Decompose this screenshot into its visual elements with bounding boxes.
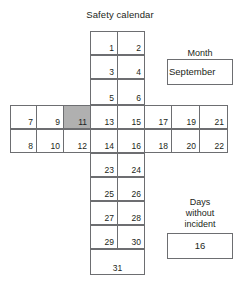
calendar-day-13[interactable]: 13 xyxy=(90,105,118,129)
calendar-day-4[interactable]: 4 xyxy=(117,55,145,79)
calendar-day-22[interactable]: 22 xyxy=(199,129,228,153)
calendar-day-7[interactable]: 7 xyxy=(10,105,37,129)
calendar-day-16[interactable]: 16 xyxy=(117,129,145,153)
calendar-day-9[interactable]: 9 xyxy=(36,105,64,129)
safety-calendar-diagram: Safety calendar 1 2 3 4 5 6 7 8 9 10 11 … xyxy=(0,0,240,301)
calendar-day-6[interactable]: 6 xyxy=(117,79,145,105)
calendar-day-21[interactable]: 21 xyxy=(199,105,228,129)
incident-panel-label-line3: incident xyxy=(166,219,234,230)
days-without-incident-value-box[interactable]: 16 xyxy=(167,233,233,259)
calendar-day-2[interactable]: 2 xyxy=(117,31,145,55)
calendar-day-30[interactable]: 30 xyxy=(117,225,145,249)
calendar-day-1[interactable]: 1 xyxy=(90,31,118,55)
calendar-day-28[interactable]: 28 xyxy=(117,201,145,225)
calendar-day-8[interactable]: 8 xyxy=(10,129,37,153)
month-panel-label: Month xyxy=(166,48,234,59)
incident-panel-label-line2: without xyxy=(166,208,234,219)
calendar-day-17[interactable]: 17 xyxy=(144,105,172,129)
calendar-day-26[interactable]: 26 xyxy=(117,177,145,201)
calendar-day-15[interactable]: 15 xyxy=(117,105,145,129)
page-title: Safety calendar xyxy=(0,9,240,20)
calendar-day-10[interactable]: 10 xyxy=(36,129,64,153)
calendar-day-27[interactable]: 27 xyxy=(90,201,118,225)
calendar-day-11-highlighted[interactable]: 11 xyxy=(63,105,91,129)
calendar-day-18[interactable]: 18 xyxy=(144,129,172,153)
calendar-day-20[interactable]: 20 xyxy=(171,129,200,153)
calendar-day-31[interactable]: 31 xyxy=(90,249,145,275)
incident-panel-label-line1: Days xyxy=(166,197,234,208)
calendar-day-29[interactable]: 29 xyxy=(90,225,118,249)
calendar-day-23[interactable]: 23 xyxy=(90,153,118,177)
calendar-day-5[interactable]: 5 xyxy=(90,79,118,105)
calendar-day-19[interactable]: 19 xyxy=(171,105,200,129)
month-value-box[interactable]: September xyxy=(167,59,233,85)
calendar-day-14[interactable]: 14 xyxy=(90,129,118,153)
calendar-day-24[interactable]: 24 xyxy=(117,153,145,177)
calendar-day-12[interactable]: 12 xyxy=(63,129,91,153)
calendar-day-25[interactable]: 25 xyxy=(90,177,118,201)
calendar-day-3[interactable]: 3 xyxy=(90,55,118,79)
